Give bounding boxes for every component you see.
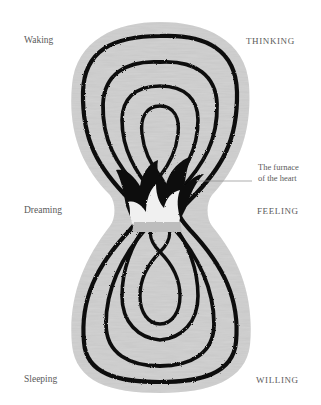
- label-thinking: THINKING: [246, 36, 295, 47]
- annotation-furnace: The furnace of the heart: [258, 162, 299, 184]
- annotation-line-2: of the heart: [258, 173, 299, 184]
- label-feeling: FEELING: [257, 206, 299, 217]
- label-waking: Waking: [24, 35, 53, 46]
- lemniscate-figure: [0, 0, 321, 405]
- label-sleeping: Sleeping: [24, 374, 57, 385]
- label-willing: WILLING: [256, 375, 299, 386]
- annotation-line-1: The furnace: [258, 162, 299, 173]
- flame-base: [132, 222, 182, 232]
- label-dreaming: Dreaming: [24, 205, 62, 216]
